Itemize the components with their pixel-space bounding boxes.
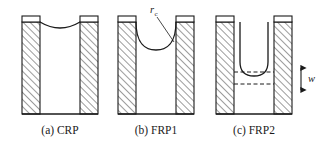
frp1-right-cap	[176, 16, 194, 22]
crp-left-cap	[22, 16, 40, 22]
diagram-canvas: (a) CRP rc (b) FRP1	[0, 0, 327, 150]
caption-crp: (a) CRP	[41, 124, 78, 137]
frp1-radius-leader-line	[157, 17, 174, 42]
crp-left-wall	[22, 22, 40, 114]
frp1-left-wall	[118, 22, 136, 114]
frp2-right-cap	[274, 16, 292, 22]
caption-frp1: (b) FRP1	[135, 124, 178, 137]
crp-meniscus	[40, 22, 80, 28]
frp2-width-label: w	[308, 73, 315, 84]
caption-frp2: (c) FRP2	[233, 124, 275, 137]
panel-frp1: rc (b) FRP1	[118, 4, 194, 137]
frp2-right-wall	[274, 22, 292, 114]
frp1-left-cap	[118, 16, 136, 22]
frp2-left-cap	[216, 16, 234, 22]
figure-container: (a) CRP rc (b) FRP1	[0, 0, 327, 150]
frp1-right-wall	[176, 22, 194, 114]
crp-right-cap	[80, 16, 98, 22]
frp1-radius-label: rc	[150, 4, 158, 18]
panel-frp2: w (c) FRP2	[216, 16, 315, 137]
frp1-radius-label-subscript: c	[155, 10, 158, 18]
frp2-u-channel	[240, 22, 268, 76]
panel-crp: (a) CRP	[22, 16, 98, 137]
frp2-left-wall	[216, 22, 234, 114]
crp-right-wall	[80, 22, 98, 114]
